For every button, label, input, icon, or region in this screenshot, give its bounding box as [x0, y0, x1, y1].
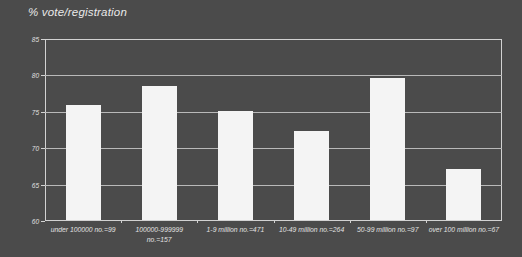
- y-axis-line: [45, 39, 46, 221]
- bar: [370, 78, 405, 220]
- y-tick-mark: [41, 221, 45, 222]
- top-axis-line: [45, 39, 502, 40]
- gridline: [45, 185, 502, 186]
- x-tick-mark: [197, 220, 198, 223]
- gridline: [45, 148, 502, 149]
- x-axis-label: over 100 million no.=67: [426, 225, 502, 235]
- bar: [66, 105, 101, 220]
- x-tick-mark: [121, 220, 122, 223]
- right-axis-line: [501, 39, 502, 221]
- y-tick-mark: [41, 185, 45, 186]
- bar: [294, 131, 329, 220]
- y-tick-mark: [41, 75, 45, 76]
- gridline: [45, 75, 502, 76]
- y-tick-mark: [41, 39, 45, 40]
- x-axis-label: 1-9 million no.=471: [197, 225, 273, 235]
- y-tick-label: 75: [32, 108, 39, 115]
- x-tick-mark: [350, 220, 351, 223]
- chart-title: % vote/registration: [28, 6, 127, 18]
- y-tick-label: 70: [32, 145, 39, 152]
- y-tick-label: 60: [32, 218, 39, 225]
- y-tick-label: 85: [32, 36, 39, 43]
- x-tick-mark: [274, 220, 275, 223]
- x-axis-labels: under 100000 no.=99100000-999999 no.=157…: [45, 225, 502, 257]
- y-tick-label: 65: [32, 181, 39, 188]
- x-tick-mark: [426, 220, 427, 223]
- y-tick-mark: [41, 112, 45, 113]
- bar: [446, 169, 481, 220]
- gridline: [45, 112, 502, 113]
- x-axis-label: 50-99 million no.=97: [350, 225, 426, 235]
- x-axis-label: under 100000 no.=99: [45, 225, 121, 235]
- x-axis-label: 10-49 million no.=264: [274, 225, 350, 235]
- plot-area: 606570758085: [45, 39, 502, 221]
- x-axis-label: 100000-999999 no.=157: [121, 225, 197, 244]
- y-tick-label: 80: [32, 72, 39, 79]
- y-tick-mark: [41, 148, 45, 149]
- bar: [218, 111, 253, 220]
- bar-chart: % vote/registration 606570758085 under 1…: [0, 0, 522, 257]
- bar: [142, 86, 177, 220]
